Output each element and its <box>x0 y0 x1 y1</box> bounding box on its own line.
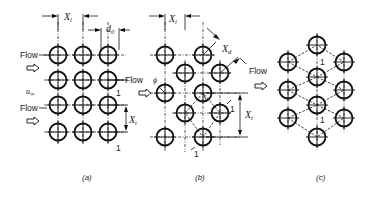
panel-b-xl-label: Xl <box>168 13 177 25</box>
panel-b-cell-marker-2: 1 <box>194 149 199 159</box>
panel-c-cell-marker-1: 1 <box>320 57 325 67</box>
panel-c-flow-label: Flow <box>249 66 268 76</box>
panel-b-angle-label: ϕ <box>153 76 157 85</box>
panel-c-tubes <box>277 34 355 148</box>
panel-c-flow-arrow <box>255 82 267 90</box>
panel-b-caption: (b) <box>195 173 205 182</box>
panel-a-cell-marker-2: 1 <box>116 143 121 153</box>
panel-b-flow-label: Flow <box>125 75 144 85</box>
panel-a-d0-label: d0 <box>106 23 115 35</box>
panel-a-flow-label-2: Flow <box>20 103 39 113</box>
panel-b-cell-marker-1: 1 <box>230 104 235 114</box>
panel-a-xl-label: Xl <box>63 11 72 23</box>
tube-bank-arrangements-figure: Xl d0 Xt Flow u∞ Flow 1 1 (a) <box>0 0 383 197</box>
panel-a-flow-arrow-1 <box>27 64 39 72</box>
panel-c-hexagonal: Flow 1 1 (c) <box>249 33 355 182</box>
panel-a-xt-label: Xt <box>128 114 137 126</box>
panel-a-velocity-label: u∞ <box>26 87 35 97</box>
panel-b-xd-label: Xd <box>221 43 232 55</box>
panel-b-xl-dimension: Xl <box>149 13 200 30</box>
panel-b-xt-dimension: Xt <box>206 93 253 137</box>
panel-a-caption: (a) <box>82 173 92 182</box>
panel-a-flow-label-1: Flow <box>20 50 39 60</box>
panel-b-xt-label: Xt <box>244 109 253 121</box>
panel-b-flow-arrow <box>139 89 151 97</box>
panel-a-flow-arrow-2 <box>27 117 39 125</box>
panel-c-cell-marker-2: 1 <box>320 115 325 125</box>
panel-a-xt-dimension: Xt <box>124 106 137 131</box>
panel-b-tubes <box>154 44 231 148</box>
panel-c-caption: (c) <box>316 173 326 182</box>
panel-a-xl-dimension: Xl <box>42 11 98 30</box>
panel-a-inline: Xl d0 Xt Flow u∞ Flow 1 1 (a) <box>20 11 137 182</box>
panel-b-staggered: Xl Xd Xt Flow ϕ 1 1 (b) <box>117 13 253 182</box>
panel-a-cell-marker-1: 1 <box>116 88 121 98</box>
